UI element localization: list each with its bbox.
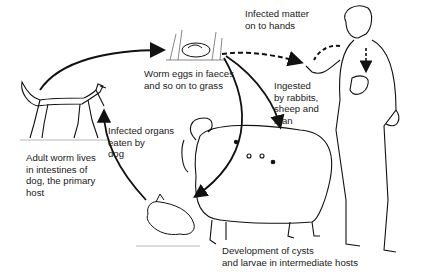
- label-infected-organs: Infected organs eaten by dog: [108, 125, 174, 160]
- label-worm-eggs: Worm eggs in faeces and so on to grass: [144, 68, 234, 91]
- sheep-illustration: [182, 118, 332, 244]
- label-adult-worm: Adult worm lives in intestines of dog, t…: [26, 152, 96, 198]
- man-illustration: [306, 6, 399, 252]
- label-ingested: Ingested by rabbits, sheep and man: [274, 80, 319, 126]
- label-development-cysts: Development of cysts and larvae in inter…: [222, 245, 358, 268]
- diagram-artwork: [0, 0, 433, 275]
- tapeworm-life-cycle-diagram: Worm eggs in faeces and so on to grass I…: [0, 0, 433, 275]
- dog-illustration: [20, 82, 110, 140]
- worm-eggs-illustration: [166, 30, 226, 60]
- rabbit-illustration: [136, 194, 200, 246]
- label-infected-matter: Infected matter on to hands: [245, 8, 309, 31]
